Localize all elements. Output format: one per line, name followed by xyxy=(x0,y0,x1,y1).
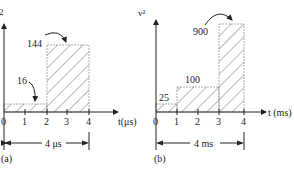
tick-b-3: 3 xyxy=(216,116,221,127)
tick-a-4: 4 xyxy=(86,116,91,127)
tick-b-1: 1 xyxy=(174,116,179,127)
value-label-900: 900 xyxy=(193,26,208,37)
duration-label-a: 4 μs xyxy=(45,138,62,149)
x-axis-label-b: t (ms) xyxy=(268,107,292,119)
y-axis-label-a: 2 xyxy=(0,7,4,17)
bar-b-25 xyxy=(156,104,177,112)
value-label-16: 16 xyxy=(17,75,27,86)
y-axis-label-b: v² xyxy=(138,8,146,18)
bar-b-900 xyxy=(219,24,244,112)
caption-a: (a) xyxy=(1,153,12,165)
value-label-144: 144 xyxy=(27,38,42,49)
x-axis-label-a: t(μs) xyxy=(118,116,137,128)
tick-b-2: 2 xyxy=(195,116,200,127)
bar-a-high xyxy=(47,45,89,112)
tick-a-0: 0 xyxy=(1,116,6,127)
tick-b-4: 4 xyxy=(241,116,246,127)
value-label-25: 25 xyxy=(159,92,169,103)
tick-a-2: 2 xyxy=(44,116,49,127)
value-label-100: 100 xyxy=(185,74,200,85)
panel-b: 0 1 2 3 4 t (ms) v² 25 100 900 4 ms (b) xyxy=(138,8,292,165)
tick-a-3: 3 xyxy=(64,116,69,127)
panel-a: 0 1 2 3 4 t(μs) 2 144 16 4 μs (a) xyxy=(0,7,137,165)
tick-b-0: 0 xyxy=(153,116,158,127)
tick-a-1: 1 xyxy=(22,116,27,127)
duration-label-b: 4 ms xyxy=(194,138,213,149)
caption-b: (b) xyxy=(154,153,166,165)
bar-b-100 xyxy=(177,87,219,112)
figure: 0 1 2 3 4 t(μs) 2 144 16 4 μs (a) 0 xyxy=(0,0,294,169)
